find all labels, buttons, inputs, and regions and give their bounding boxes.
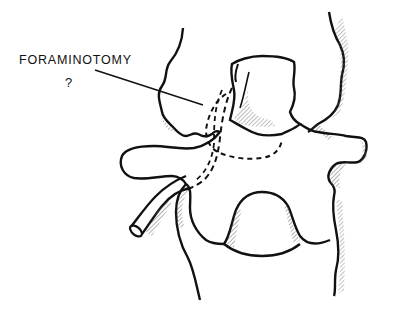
vertebra-diagram: FORAMINOTOMY ? xyxy=(0,0,404,315)
facet-joint xyxy=(230,56,300,135)
left-upper-process xyxy=(159,28,220,136)
question-mark-label: ? xyxy=(65,75,72,90)
spinal-canal xyxy=(224,192,330,256)
foraminotomy-label: FORAMINOTOMY xyxy=(19,53,132,67)
right-upper-process xyxy=(308,12,348,140)
annotation-leader-line xyxy=(95,70,203,105)
vertebra-illustration xyxy=(0,0,404,315)
lamina-inner-outline xyxy=(186,184,224,244)
